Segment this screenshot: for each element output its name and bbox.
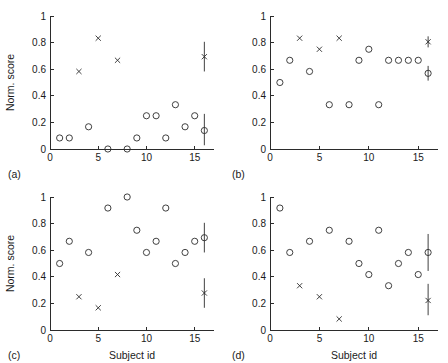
- data-point-circle: [143, 113, 149, 119]
- y-tick-label: 0.6: [252, 64, 266, 75]
- y-tick-label: 0.4: [32, 90, 46, 101]
- y-tick-label: 0.4: [252, 90, 266, 101]
- y-tick-label: 1: [40, 192, 46, 203]
- data-point-circle: [182, 124, 188, 130]
- data-point-circle: [376, 227, 382, 233]
- data-point-circle: [415, 57, 421, 63]
- data-point-cross: [317, 47, 322, 52]
- data-point-cross: [96, 305, 101, 310]
- data-point-circle: [66, 135, 72, 141]
- panel-tag-b: (b): [232, 168, 245, 180]
- plot-area-c: 00.20.40.60.81051015Norm. scoreSubject i…: [0, 181, 224, 362]
- data-point-circle: [163, 135, 169, 141]
- y-axis-title: Norm. score: [4, 54, 16, 111]
- panel-tag-a: (a): [8, 168, 21, 180]
- panel-tag-c: (c): [8, 349, 20, 361]
- x-axis-title: Subject id: [331, 349, 377, 361]
- y-tick-label: 0.8: [32, 218, 46, 229]
- plot-area-a: 00.20.40.60.81051015Norm. score(a): [0, 0, 224, 181]
- y-tick-label: 0.2: [32, 117, 46, 128]
- data-point-circle: [172, 260, 178, 266]
- data-point-circle: [134, 227, 140, 233]
- data-point-circle: [376, 102, 382, 108]
- y-tick-label: 1: [260, 192, 266, 203]
- chart-panel-c: 00.20.40.60.81051015Norm. scoreSubject i…: [0, 181, 224, 362]
- data-point-cross: [115, 272, 120, 277]
- data-point-circle: [105, 205, 111, 211]
- data-point-cross: [317, 294, 322, 299]
- data-point-circle: [405, 249, 411, 255]
- y-tick-label: 0.8: [252, 37, 266, 48]
- x-tick-label: 15: [189, 152, 201, 163]
- x-tick-label: 0: [47, 333, 53, 344]
- y-tick-label: 1: [260, 11, 266, 22]
- data-point-circle: [277, 205, 283, 211]
- figure-panel-grid: 00.20.40.60.81051015Norm. score(a) 00.20…: [0, 0, 448, 363]
- y-tick-label: 1: [40, 11, 46, 22]
- data-point-circle: [306, 238, 312, 244]
- data-point-cross: [76, 69, 81, 74]
- y-tick-label: 0.6: [252, 245, 266, 256]
- data-point-circle: [395, 260, 401, 266]
- data-point-circle: [153, 113, 159, 119]
- data-point-circle: [124, 194, 130, 200]
- data-point-circle: [66, 238, 72, 244]
- x-tick-label: 5: [95, 152, 101, 163]
- data-point-circle: [85, 124, 91, 130]
- data-point-circle: [192, 238, 198, 244]
- plot-area-d: 00.20.40.60.81051015Subject id(d): [224, 181, 448, 362]
- panel-tag-d: (d): [232, 349, 245, 361]
- data-point-circle: [356, 260, 362, 266]
- data-point-circle: [405, 57, 411, 63]
- data-point-cross: [337, 316, 342, 321]
- data-point-circle: [306, 68, 312, 74]
- data-point-cross: [297, 36, 302, 41]
- x-tick-label: 10: [363, 152, 375, 163]
- x-tick-label: 5: [95, 333, 101, 344]
- chart-panel-a: 00.20.40.60.81051015Norm. score(a): [0, 0, 224, 181]
- y-tick-label: 0.8: [32, 37, 46, 48]
- x-tick-label: 10: [363, 333, 375, 344]
- data-point-circle: [143, 249, 149, 255]
- y-tick-label: 0.2: [252, 298, 266, 309]
- x-tick-label: 15: [413, 152, 425, 163]
- x-tick-label: 15: [189, 333, 201, 344]
- data-point-circle: [134, 135, 140, 141]
- y-tick-label: 0.2: [252, 117, 266, 128]
- data-point-circle: [326, 227, 332, 233]
- data-point-circle: [395, 57, 401, 63]
- data-point-circle: [366, 271, 372, 277]
- data-point-circle: [57, 260, 63, 266]
- x-tick-label: 15: [413, 333, 425, 344]
- data-point-circle: [287, 249, 293, 255]
- data-point-circle: [153, 238, 159, 244]
- data-point-cross: [297, 283, 302, 288]
- data-point-circle: [163, 205, 169, 211]
- y-tick-label: 0.4: [252, 271, 266, 282]
- data-point-circle: [356, 57, 362, 63]
- data-point-circle: [57, 135, 63, 141]
- x-tick-label: 5: [317, 152, 323, 163]
- data-point-cross: [115, 58, 120, 63]
- chart-panel-d: 00.20.40.60.81051015Subject id(d): [224, 181, 448, 362]
- x-tick-label: 10: [141, 333, 153, 344]
- data-point-circle: [415, 271, 421, 277]
- data-point-circle: [385, 283, 391, 289]
- x-tick-label: 0: [267, 152, 273, 163]
- data-point-circle: [346, 102, 352, 108]
- y-tick-label: 0.8: [252, 218, 266, 229]
- y-tick-label: 0.4: [32, 271, 46, 282]
- data-point-circle: [182, 249, 188, 255]
- data-point-circle: [385, 57, 391, 63]
- data-point-circle: [326, 102, 332, 108]
- x-axis-title: Subject id: [109, 349, 155, 361]
- data-point-circle: [192, 113, 198, 119]
- y-tick-label: 0: [40, 144, 46, 155]
- data-point-circle: [277, 79, 283, 85]
- chart-panel-b: 00.20.40.60.81051015(b): [224, 0, 448, 181]
- data-point-cross: [337, 36, 342, 41]
- data-point-circle: [346, 238, 352, 244]
- data-point-cross: [96, 36, 101, 41]
- y-tick-label: 0.6: [32, 64, 46, 75]
- data-point-circle: [85, 249, 91, 255]
